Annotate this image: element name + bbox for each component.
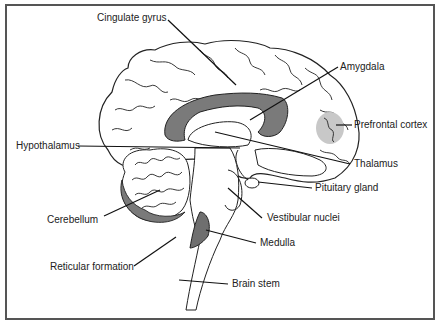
- label-prefrontal-cortex: Prefrontal cortex: [354, 119, 427, 131]
- label-cerebellum: Cerebellum: [47, 214, 98, 226]
- label-brain-stem: Brain stem: [232, 278, 280, 290]
- label-hypothalamus: Hypothalamus: [16, 140, 80, 152]
- label-reticular-formation: Reticular formation: [50, 261, 134, 273]
- label-medulla: Medulla: [260, 237, 295, 249]
- label-amygdala: Amygdala: [340, 61, 384, 73]
- label-thalamus: Thalamus: [354, 158, 398, 170]
- label-vestibular-nuclei: Vestibular nuclei: [267, 212, 340, 224]
- label-pituitary-gland: Pituitary gland: [315, 182, 378, 194]
- label-cingulate-gyrus: Cingulate gyrus: [97, 12, 166, 24]
